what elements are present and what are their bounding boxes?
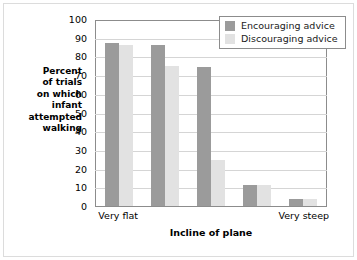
bar-discouraging — [257, 185, 271, 206]
y-axis-tick-label: 10 — [75, 184, 87, 194]
bar-group — [151, 21, 180, 206]
bar-group — [105, 21, 134, 206]
y-axis-tick-label: 40 — [75, 127, 87, 137]
legend-label-discouraging: Discouraging advice — [241, 34, 338, 44]
y-axis-tick-label: 50 — [75, 109, 87, 119]
y-axis-tick-label: 90 — [75, 34, 87, 44]
bar-discouraging — [303, 199, 317, 206]
y-axis-tick-label: 80 — [75, 53, 87, 63]
x-axis-tick-label: Very flat — [98, 210, 138, 221]
y-axis-tick-label: 30 — [75, 146, 87, 156]
legend: Encouraging advice Discouraging advice — [219, 16, 346, 49]
legend-swatch-icon-encouraging — [225, 21, 235, 31]
legend-swatch-icon-discouraging — [225, 34, 235, 44]
x-axis-tick-label: Very steep — [279, 210, 330, 221]
y-axis-tick-labels: 1009080706050403020100 — [60, 20, 91, 207]
bar-discouraging — [119, 45, 133, 206]
bar-discouraging — [165, 66, 179, 206]
x-axis-tick-labels: Very flatVery steep — [95, 210, 327, 224]
bar-discouraging — [211, 160, 225, 206]
bar-encouraging — [197, 67, 211, 206]
legend-item-discouraging: Discouraging advice — [225, 34, 338, 44]
y-axis-tick-label: 20 — [75, 165, 87, 175]
y-axis-tick-label: 70 — [75, 71, 87, 81]
y-axis-tick-label: 100 — [69, 15, 87, 25]
chart-figure: Percent of trials on which infant attemp… — [0, 0, 357, 260]
bar-encouraging — [151, 45, 165, 206]
bar-encouraging — [289, 199, 303, 206]
legend-label-encouraging: Encouraging advice — [241, 21, 335, 31]
bar-encouraging — [105, 43, 119, 206]
legend-item-encouraging: Encouraging advice — [225, 21, 338, 31]
y-axis-tick-label: 0 — [81, 202, 87, 212]
bar-encouraging — [243, 185, 257, 206]
y-axis-tick-label: 60 — [75, 90, 87, 100]
x-axis-title: Incline of plane — [95, 227, 327, 238]
